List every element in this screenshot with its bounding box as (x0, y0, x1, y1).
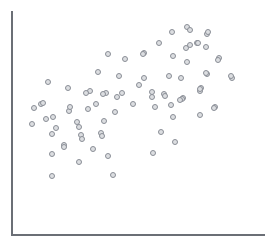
data-point (31, 105, 37, 111)
data-point (184, 59, 190, 65)
data-point (45, 79, 51, 85)
y-axis-spine (11, 11, 13, 236)
data-point (170, 53, 176, 59)
data-point (172, 139, 178, 145)
plot-area (0, 0, 278, 244)
data-point (50, 114, 56, 120)
data-point (49, 131, 55, 137)
data-point (170, 114, 176, 120)
data-point (40, 100, 46, 106)
data-point (99, 133, 105, 139)
scatter-plot-figure (0, 0, 278, 244)
data-point (187, 42, 193, 48)
data-point (95, 69, 101, 75)
data-point (49, 173, 55, 179)
data-point (156, 40, 162, 46)
data-point (152, 104, 158, 110)
data-point (83, 90, 89, 96)
data-point (101, 118, 107, 124)
data-point (116, 73, 122, 79)
data-point (112, 109, 118, 115)
data-point (177, 97, 183, 103)
data-point (203, 70, 209, 76)
data-point (203, 44, 209, 50)
data-point (195, 40, 201, 46)
data-point (228, 73, 234, 79)
data-point (114, 94, 120, 100)
data-point (140, 51, 146, 57)
data-point (178, 75, 184, 81)
data-point (158, 129, 164, 135)
data-point (162, 93, 168, 99)
data-point (105, 51, 111, 57)
data-point (43, 116, 49, 122)
data-point (53, 125, 59, 131)
data-point (166, 73, 172, 79)
data-point (168, 102, 174, 108)
data-point (76, 159, 82, 165)
data-point (136, 82, 142, 88)
data-point (187, 27, 193, 33)
data-point (215, 57, 221, 63)
data-point (49, 151, 55, 157)
data-point (141, 75, 147, 81)
data-point (76, 124, 82, 130)
data-point (169, 29, 175, 35)
data-point (119, 90, 125, 96)
data-point (197, 112, 203, 118)
data-point (100, 91, 106, 97)
data-point (211, 105, 217, 111)
data-point (149, 94, 155, 100)
x-axis-spine (11, 234, 265, 236)
data-point (65, 85, 71, 91)
data-point (93, 101, 99, 107)
data-point (90, 146, 96, 152)
data-point (110, 172, 116, 178)
data-point (79, 136, 85, 142)
data-point (105, 153, 111, 159)
data-point (197, 86, 203, 92)
data-point (85, 106, 91, 112)
data-point (122, 56, 128, 62)
data-point (130, 101, 136, 107)
data-point (205, 29, 211, 35)
data-point (29, 121, 35, 127)
data-point (61, 144, 67, 150)
data-point (150, 150, 156, 156)
data-point (67, 104, 73, 110)
